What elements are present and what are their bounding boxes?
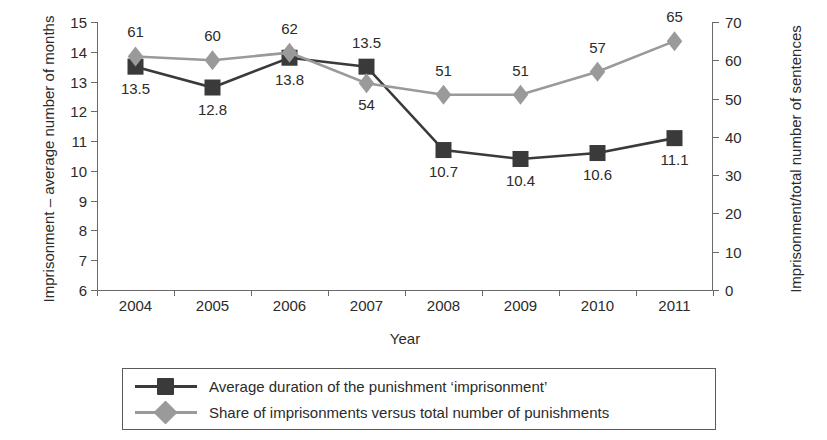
y-axis-left-tick-label: 6 — [47, 283, 97, 298]
data-point-marker — [590, 62, 606, 82]
data-point-label: 10.4 — [486, 173, 556, 188]
data-point-label: 12.8 — [178, 102, 248, 117]
series-layer — [97, 22, 713, 291]
y-axis-right-tick-label: 50 — [713, 92, 769, 107]
data-point-marker — [513, 151, 529, 167]
data-point-label: 65 — [640, 9, 710, 24]
x-axis-tick-label: 2008 — [404, 298, 484, 313]
chart-legend: Average duration of the punishment ‘impr… — [122, 368, 716, 430]
y-axis-right-tick-label: 30 — [713, 168, 769, 183]
legend-item-1: Share of imprisonments versus total numb… — [135, 399, 609, 425]
data-point-label: 60 — [178, 28, 248, 43]
x-axis-tick-label: 2006 — [250, 298, 330, 313]
y-axis-right-tick-label: 60 — [713, 53, 769, 68]
x-axis-tick-label: 2010 — [558, 298, 638, 313]
data-point-marker — [590, 145, 606, 161]
data-point-label: 61 — [101, 24, 171, 39]
y-axis-left-tick-label: 12 — [47, 104, 97, 119]
data-point-marker — [436, 85, 452, 105]
x-axis-tick-label: 2005 — [173, 298, 253, 313]
legend-label-0: Average duration of the punishment ‘impr… — [209, 378, 547, 395]
data-point-marker — [667, 130, 683, 146]
data-point-label: 51 — [486, 63, 556, 78]
y-axis-left-tick-label: 15 — [47, 15, 97, 30]
x-axis-tick-label: 2009 — [481, 298, 561, 313]
x-axis-title: Year — [97, 330, 713, 348]
legend-label-1: Share of imprisonments versus total numb… — [209, 404, 609, 421]
data-point-label: 10.6 — [563, 167, 633, 182]
data-point-label: 10.7 — [409, 164, 479, 179]
y-axis-right-tick-label: 10 — [713, 245, 769, 260]
y-axis-left-tick-label: 10 — [47, 164, 97, 179]
data-point-marker — [359, 59, 375, 75]
y-axis-left-tick-label: 9 — [47, 194, 97, 209]
data-point-label: 62 — [255, 21, 325, 36]
y-axis-left-tick-label: 14 — [47, 45, 97, 60]
y-axis-right-tick-label: 70 — [713, 15, 769, 30]
y-axis-right-tick-label: 40 — [713, 130, 769, 145]
data-point-marker — [513, 85, 529, 105]
data-point-marker — [205, 80, 221, 96]
x-axis-tick-label: 2011 — [635, 298, 715, 313]
y-axis-right-tick-label: 0 — [713, 283, 769, 298]
data-point-label: 13.5 — [332, 35, 402, 50]
data-point-marker — [436, 142, 452, 158]
legend-marker-diamond-icon — [135, 401, 197, 423]
y-axis-right-title: Imprisonment/total number of sentences — [787, 14, 805, 304]
data-point-label: 54 — [332, 97, 402, 112]
y-axis-right-tick-label: 20 — [713, 206, 769, 221]
data-point-marker — [667, 31, 683, 51]
data-point-label: 13.5 — [101, 81, 171, 96]
x-axis-tick-label: 2004 — [96, 298, 176, 313]
data-point-label: 11.1 — [640, 152, 710, 167]
data-point-marker — [205, 50, 221, 70]
y-axis-left-tick-label: 11 — [47, 134, 97, 149]
x-axis-tick — [713, 290, 714, 296]
y-axis-left-tick-label: 8 — [47, 223, 97, 238]
y-axis-left-tick-label: 7 — [47, 253, 97, 268]
y-axis-left-tick-label: 13 — [47, 75, 97, 90]
data-point-label: 13.8 — [255, 72, 325, 87]
legend-item-0: Average duration of the punishment ‘impr… — [135, 373, 547, 399]
data-point-label: 51 — [409, 63, 479, 78]
plot-area: 1514131211109876 706050403020100 2004200… — [97, 22, 713, 290]
x-axis-tick-label: 2007 — [327, 298, 407, 313]
data-point-marker — [359, 73, 375, 93]
line-chart: Imprisonment – average number of months … — [0, 0, 827, 440]
data-point-label: 57 — [563, 40, 633, 55]
legend-marker-square-icon — [135, 375, 197, 397]
